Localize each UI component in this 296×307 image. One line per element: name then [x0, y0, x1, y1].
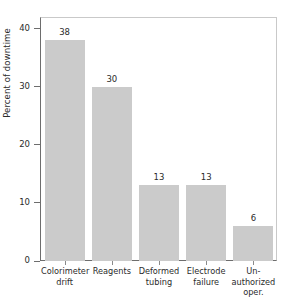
x-tick-mark: [253, 261, 254, 265]
y-tick-label: 30: [6, 82, 30, 91]
x-axis-label-line: Colorimeter: [41, 266, 88, 277]
y-tick-mark: [34, 28, 40, 29]
bar: [45, 40, 85, 261]
y-tick-mark: [34, 144, 40, 145]
x-tick-mark: [65, 261, 66, 265]
bar: [186, 185, 226, 261]
y-tick-label: 10: [6, 198, 30, 207]
x-tick-mark: [206, 261, 207, 265]
y-tick-label: 20: [6, 140, 30, 149]
y-tick-mark: [34, 86, 40, 87]
bar-value-label: 38: [45, 27, 85, 37]
x-tick-mark: [159, 261, 160, 265]
bar: [92, 87, 132, 261]
x-axis-category-label: Electrodefailure: [183, 266, 230, 287]
x-axis-label-line: authorized: [230, 277, 277, 288]
y-tick-mark: [34, 261, 40, 262]
x-axis-label-line: Un-: [230, 266, 277, 277]
y-axis-title: Percent of downtime: [0, 18, 14, 128]
x-axis-label-line: tubing: [135, 277, 182, 288]
bar: [139, 185, 179, 261]
bar-value-label: 6: [233, 213, 273, 223]
y-tick-mark: [34, 202, 40, 203]
x-axis-label-line: Electrode: [183, 266, 230, 277]
x-tick-mark: [112, 261, 113, 265]
bar: [233, 226, 273, 261]
x-axis-category-label: Un-authorizedoper.: [230, 266, 277, 298]
bar-value-label: 30: [92, 74, 132, 84]
bar-chart: Percent of downtime 010203040 383013136 …: [0, 0, 296, 307]
y-tick-label: 0: [6, 256, 30, 265]
y-tick-label: 40: [6, 24, 30, 33]
bar-value-label: 13: [186, 172, 226, 182]
x-axis-label-line: drift: [41, 277, 88, 288]
x-axis-category-label: Colorimeterdrift: [41, 266, 88, 287]
x-axis-label-line: oper.: [230, 287, 277, 298]
x-axis-label-line: Deformed: [135, 266, 182, 277]
x-axis-label-line: Reagents: [88, 266, 135, 277]
x-axis-category-label: Reagents: [88, 266, 135, 277]
x-axis-label-line: failure: [183, 277, 230, 288]
x-axis-category-label: Deformedtubing: [135, 266, 182, 287]
bar-value-label: 13: [139, 172, 179, 182]
